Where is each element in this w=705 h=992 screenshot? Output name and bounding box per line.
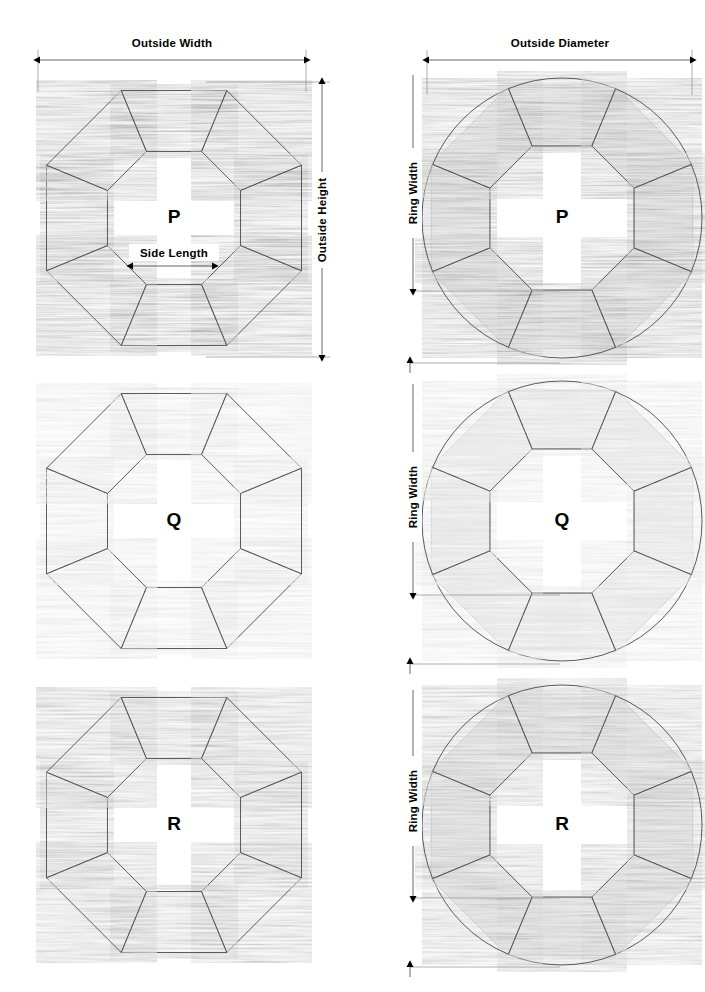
letter-r-round: R [555,813,569,834]
letter-p-octagon: P [168,206,181,227]
label-ring-width-3: Ring Width [407,770,419,833]
label-outside-height: Outside Height [316,178,328,263]
letter-q-round: Q [555,509,570,530]
label-side-length: Side Length [140,247,208,259]
label-ring-width-2: Ring Width [407,466,419,529]
diagram-canvas: Outside Width Outside Height Side Length… [0,0,705,992]
letter-q-octagon: Q [167,509,182,530]
letter-p-round: P [556,206,569,227]
label-outside-width: Outside Width [132,37,212,49]
label-outside-diameter: Outside Diameter [511,37,610,49]
label-ring-width-1: Ring Width [407,162,419,225]
letter-r-octagon: R [167,813,181,834]
octagon-ring-diagram: Outside Width Outside Height Side Length… [0,0,705,992]
